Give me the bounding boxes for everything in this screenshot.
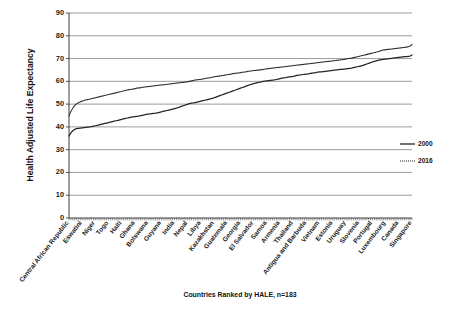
y-tick-label: 20 bbox=[56, 167, 64, 176]
x-axis-title: Countries Ranked by HALE, n=183 bbox=[183, 291, 296, 299]
y-tick-label: 50 bbox=[56, 99, 64, 108]
y-axis-ticks: 0102030405060708090 bbox=[56, 8, 69, 222]
data-series bbox=[69, 44, 412, 136]
y-tick-label: 90 bbox=[56, 8, 64, 17]
y-axis-title: Health Adjusted Life Expectancy bbox=[25, 48, 35, 181]
series-line-2016 bbox=[69, 44, 412, 116]
chart-legend: 20002016 bbox=[400, 140, 433, 164]
x-tick-label: Nepal bbox=[172, 219, 189, 238]
chart-container: 0102030405060708090 Central African Repu… bbox=[0, 0, 461, 310]
legend-label-2016: 2016 bbox=[418, 157, 433, 164]
x-tick-label: Togo bbox=[94, 219, 110, 236]
y-tick-label: 60 bbox=[56, 76, 64, 85]
y-tick-label: 40 bbox=[56, 122, 64, 131]
x-tick-label: Central African Republic bbox=[18, 219, 71, 284]
y-tick-label: 70 bbox=[56, 54, 64, 63]
y-tick-label: 10 bbox=[56, 190, 64, 199]
x-tick-label: Niger bbox=[80, 219, 97, 237]
hale-line-chart: 0102030405060708090 Central African Repu… bbox=[0, 0, 461, 310]
x-axis-tick-labels: Central African RepublicEswatiniNigerTog… bbox=[18, 219, 414, 284]
gridlines bbox=[69, 13, 412, 195]
y-tick-label: 80 bbox=[56, 31, 64, 40]
y-tick-label: 30 bbox=[56, 145, 64, 154]
series-line-2000 bbox=[69, 55, 412, 136]
legend-label-2000: 2000 bbox=[418, 140, 433, 147]
